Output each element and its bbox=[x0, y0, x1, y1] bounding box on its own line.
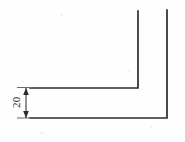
inner-leg-path bbox=[30, 11, 138, 88]
outer-leg-path bbox=[30, 10, 167, 118]
thickness-dimension-group: 20 bbox=[10, 88, 32, 119]
technical-drawing-svg: 20 bbox=[0, 0, 185, 142]
drawing-canvas: 20 bbox=[0, 0, 185, 142]
dimension-label-20: 20 bbox=[10, 96, 22, 108]
arrow-head-up-icon bbox=[23, 88, 29, 95]
part-outline-group bbox=[30, 10, 167, 118]
arrow-head-down-icon bbox=[23, 111, 29, 118]
